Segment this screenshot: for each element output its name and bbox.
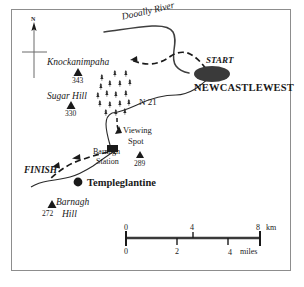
scale-km-tick-4: 4	[190, 224, 194, 232]
newcastlewest-label: NEWCASTLEWEST	[194, 83, 294, 94]
scale-miles-tick-0: 0	[124, 248, 128, 256]
scale-km-tick-8: 8	[256, 224, 260, 232]
map-graphics	[0, 0, 304, 287]
barnagh-hill-elevation: 272	[42, 210, 53, 218]
knockanimpaha-elevation: 343	[72, 77, 83, 85]
knockanimpaha-label: Knockanimpaha	[47, 58, 109, 68]
peak-marker-knockanimpaha	[74, 68, 83, 76]
templeglantine-town-marker	[74, 178, 83, 187]
peak-marker-289	[136, 151, 144, 158]
barnagh-hill-label-line2: Hill	[62, 210, 77, 220]
road-n21-label: N 21	[139, 98, 157, 107]
map-figure: N Dooally River START NEWCASTLEWEST Knoc…	[0, 0, 304, 287]
barnagh-station-label-line1: Barnagh	[93, 148, 120, 156]
peak-289-elevation: 289	[134, 160, 145, 168]
river-dooally	[104, 26, 189, 73]
sugar-hill-elevation: 330	[65, 110, 76, 118]
barnagh-hill-label-line1: Barnagh	[56, 198, 89, 208]
scale-miles-tick-4: 4	[228, 249, 232, 257]
viewing-spot-label-line2: Spot	[128, 137, 144, 146]
finish-label: FINISH	[24, 166, 57, 176]
peak-marker-sugar-hill	[67, 101, 76, 109]
scale-bar	[126, 231, 260, 246]
sugar-hill-label: Sugar Hill	[47, 92, 87, 102]
compass-north-label: N	[31, 16, 35, 22]
compass-icon	[22, 22, 47, 78]
scale-km-tick-0: 0	[124, 224, 128, 232]
start-label: START	[206, 56, 234, 65]
viewing-spot-label-line1: Viewing	[123, 126, 152, 135]
newcastlewest-town-marker	[194, 66, 230, 82]
scale-miles-tick-2: 2	[175, 248, 179, 256]
templeglantine-label: Templeglantine	[87, 178, 156, 189]
scale-miles-unit: miles	[240, 248, 257, 256]
barnagh-station-label-line2: Station	[96, 158, 119, 166]
scale-km-unit: km	[266, 224, 276, 232]
